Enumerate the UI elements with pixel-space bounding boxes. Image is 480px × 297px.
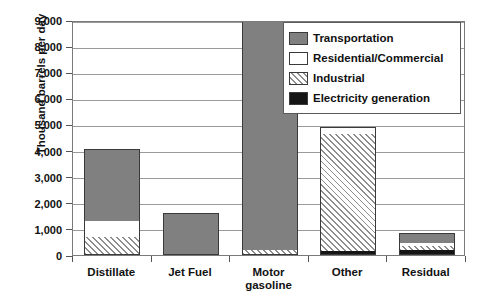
bar-segment[interactable] — [399, 250, 455, 255]
x-axis-tick-mark — [72, 256, 73, 262]
bar-segment[interactable] — [163, 213, 219, 255]
legend-item-label: Transportation — [313, 32, 394, 44]
electricity-generation-swatch — [289, 92, 308, 105]
bar-stack[interactable] — [163, 213, 219, 255]
legend-item[interactable]: Electricity generation — [289, 88, 456, 108]
category-label-line: gasoline — [214, 279, 324, 292]
stacked-bar-chart: Thousand barrels per day 01,0002,0003,00… — [0, 0, 480, 297]
y-axis-tick-label: 8,000 — [12, 41, 62, 53]
x-axis-tick-mark — [386, 256, 387, 262]
legend: TransportationResidential/CommercialIndu… — [283, 22, 461, 114]
y-axis-tick-label: 1,000 — [12, 224, 62, 236]
legend-item-label: Electricity generation — [313, 92, 430, 104]
bar-segment[interactable] — [84, 149, 140, 221]
legend-item-label: Industrial — [313, 72, 365, 84]
y-axis-tick-label: 4,000 — [12, 146, 62, 158]
legend-item[interactable]: Residential/Commercial — [289, 48, 456, 68]
x-axis-category-label: Residual — [371, 266, 480, 279]
bar-stack[interactable] — [84, 149, 140, 255]
x-axis-tick-mark — [465, 256, 466, 262]
legend-item[interactable]: Transportation — [289, 28, 456, 48]
y-axis-tick-label: 3,000 — [12, 172, 62, 184]
bar-segment[interactable] — [320, 251, 376, 255]
bar-stack[interactable] — [320, 127, 376, 255]
bar-segment[interactable] — [320, 134, 376, 252]
bar-stack[interactable] — [399, 233, 455, 255]
bar-segment[interactable] — [242, 250, 298, 255]
legend-item-label: Residential/Commercial — [313, 52, 443, 64]
x-axis-tick-mark — [308, 256, 309, 262]
y-axis-tick-label: 6,000 — [12, 93, 62, 105]
y-axis-tick-label: 7,000 — [12, 67, 62, 79]
category-label-line: Residual — [371, 266, 480, 279]
y-axis-tick-label: 2,000 — [12, 198, 62, 210]
bar-segment[interactable] — [84, 221, 140, 237]
y-axis-tick-label: 5,000 — [12, 119, 62, 131]
industrial-swatch — [289, 72, 308, 85]
x-axis-tick-mark — [229, 256, 230, 262]
bar-segment[interactable] — [399, 233, 455, 243]
x-axis-tick-mark — [151, 256, 152, 262]
transportation-swatch — [289, 32, 308, 45]
clipped-title-remnant — [150, 0, 350, 6]
bar-segment[interactable] — [84, 237, 140, 255]
residential-commercial-swatch — [289, 52, 308, 65]
y-axis-tick-label: 0 — [12, 250, 62, 262]
legend-item[interactable]: Industrial — [289, 68, 456, 88]
y-axis-tick-label: 9,000 — [12, 15, 62, 27]
